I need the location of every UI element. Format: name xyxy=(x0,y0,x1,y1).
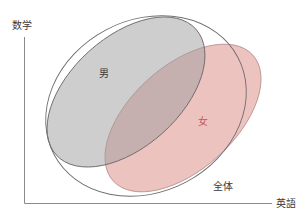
female-label: 女 xyxy=(198,117,208,127)
x-axis-label: 英語 xyxy=(276,199,296,209)
male-label: 男 xyxy=(99,69,109,79)
y-axis-label: 数学 xyxy=(12,21,32,31)
ellipse-diagram xyxy=(0,0,306,221)
whole-label: 全体 xyxy=(213,182,233,192)
